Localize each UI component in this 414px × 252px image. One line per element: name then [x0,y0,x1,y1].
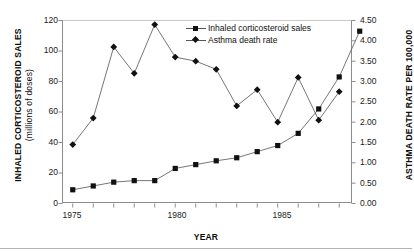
legend-item-sales: Inhaled corticosteroid sales [186,22,311,34]
diamond-marker-icon [186,35,206,45]
y2-axis-tick-label: 4.50 [360,15,390,25]
chart-legend: Inhaled corticosteroid sales Asthma deat… [186,22,311,46]
figure-bottom-rule [0,248,412,249]
y-axis-tick-label: 60 [32,106,58,116]
y2-axis-title: ASTHMA DEATH RATE PER 100,000 [404,10,414,200]
y-axis-tick-label: 20 [32,167,58,177]
legend-label: Inhaled corticosteroid sales [208,22,311,34]
y-axis-tick-label: 120 [32,15,58,25]
y2-axis-tick-label: 4.00 [360,35,390,45]
y2-axis-tick-label: 1.50 [360,137,390,147]
y-axis-tick-label: 80 [32,76,58,86]
x-axis-title: YEAR [0,232,412,242]
x-axis-tick-label: 1985 [262,210,302,220]
y-axis-tick-label: 0 [32,198,58,208]
y2-axis-tick-label: 2.50 [360,96,390,106]
y2-axis-tick-label: 3.00 [360,76,390,86]
y2-axis-tick-label: 0.50 [360,178,390,188]
y-axis-tick-label: 100 [32,45,58,55]
square-marker-icon [186,23,206,33]
x-axis-tick-label: 1980 [157,210,197,220]
y2-axis-tick-label: 2.00 [360,117,390,127]
y-axis-title-line2: (millions of doses) [24,10,34,200]
y2-axis-tick-label: 0.00 [360,198,390,208]
y-axis-title-line1: INHALED CORTICOSTEROID SALES [13,10,23,200]
y2-axis-tick-label: 3.50 [360,56,390,66]
x-axis-tick-label: 1975 [52,210,92,220]
plot-area [62,20,352,203]
legend-item-death-rate: Asthma death rate [186,34,311,46]
y2-axis-tick-label: 1.00 [360,157,390,167]
legend-label: Asthma death rate [208,34,277,46]
y-axis-tick-label: 40 [32,137,58,147]
